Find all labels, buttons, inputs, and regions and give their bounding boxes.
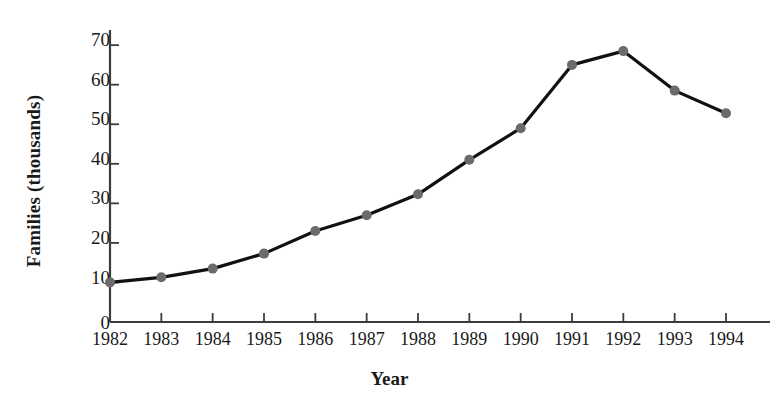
x-tick-label-1994: 1994 [696, 330, 756, 348]
line-chart: Families (thousands) 70 60 50 40 30 20 1… [0, 0, 779, 409]
data-point-1990 [516, 123, 526, 133]
axes [110, 30, 770, 322]
data-point-1991 [567, 60, 577, 70]
data-point-1989 [464, 155, 474, 165]
data-point-1983 [156, 272, 166, 282]
data-point-markers [105, 46, 731, 287]
data-point-1984 [208, 264, 218, 274]
x-axis-ticks [161, 313, 726, 322]
x-axis-title: Year [0, 368, 779, 390]
data-point-1994 [721, 108, 731, 118]
data-point-1987 [362, 210, 372, 220]
y-axis-ticks [110, 45, 119, 282]
data-point-1985 [259, 249, 269, 259]
data-point-1986 [310, 226, 320, 236]
data-point-1992 [618, 46, 628, 56]
data-point-1982 [105, 277, 115, 287]
data-point-1993 [670, 86, 680, 96]
data-line [110, 51, 726, 282]
data-point-1988 [413, 189, 423, 199]
